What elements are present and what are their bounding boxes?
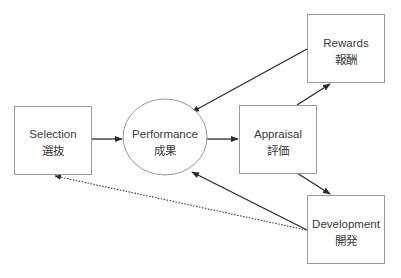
edge-appraisal-to-development xyxy=(297,173,330,194)
edge-rewards-to-performance xyxy=(192,49,307,112)
node-selection: Selection 選抜 xyxy=(15,107,92,175)
node-appraisal-label: Appraisal xyxy=(254,128,302,140)
node-rewards: Rewards 報酬 xyxy=(308,15,385,83)
node-appraisal: Appraisal 評価 xyxy=(240,106,317,174)
node-appraisal-label-jp: 評価 xyxy=(267,144,289,158)
node-rewards-label-jp: 報酬 xyxy=(335,53,357,67)
node-performance: Performance 成果 xyxy=(123,99,207,175)
node-development-label-jp: 開発 xyxy=(335,234,358,248)
edge-development-to-performance xyxy=(192,172,307,230)
node-rewards-label: Rewards xyxy=(323,37,369,49)
node-development-label: Development xyxy=(312,218,381,230)
edge-appraisal-to-rewards xyxy=(297,84,330,105)
hr-cycle-diagram: Selection 選抜 Performance 成果 Appraisal 評価… xyxy=(0,0,401,278)
node-development: Development 開発 xyxy=(308,196,385,264)
node-selection-label: Selection xyxy=(29,128,76,140)
edge-development-to-selection xyxy=(55,176,306,230)
node-performance-label-jp: 成果 xyxy=(154,144,177,158)
node-selection-label-jp: 選抜 xyxy=(42,144,65,158)
node-performance-label: Performance xyxy=(132,128,198,140)
